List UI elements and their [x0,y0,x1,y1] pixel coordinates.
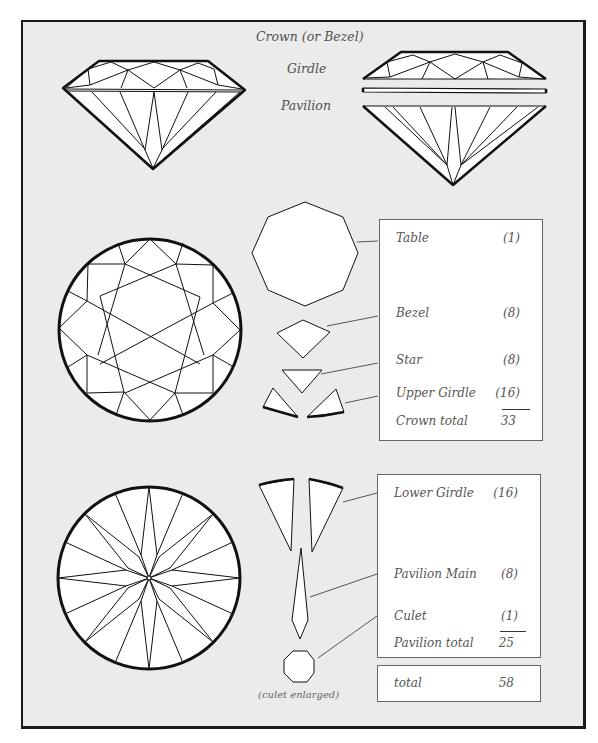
pavilion-label: Pavilion [281,98,331,113]
facet-name: Table [396,231,429,245]
crown-profile [363,52,546,79]
culet-caption: (culet enlarged) [258,689,339,700]
total-label: Pavilion total [394,636,474,650]
sum-rule [502,409,530,410]
facet-name: Star [396,353,422,367]
total-value: 33 [501,414,516,428]
leader-lines [310,241,378,658]
pavilion-main-facet [292,548,308,639]
crown-facet-count-box: Table (1) Bezel (8) Star (8) Upper Girdl… [379,219,543,441]
upper-girdle-facets [263,388,344,417]
grand-total-box: total 58 [377,665,541,702]
sum-rule [500,631,526,632]
total-value: 58 [499,676,514,690]
facet-count: (16) [495,386,520,400]
facet-count: (16) [493,486,518,500]
girdle-label: Girdle [287,61,326,76]
pavilion-profile [363,106,546,185]
bezel-facet [277,320,330,358]
side-profile-assembled [63,61,245,169]
facet-count: (1) [503,231,520,245]
facet-count: (8) [503,306,520,320]
facet-name: Culet [394,609,427,623]
total-label: Crown total [396,414,468,428]
crown-top-view [59,239,241,421]
pavilion-bottom-view [58,487,240,669]
facet-name: Upper Girdle [396,386,476,400]
facet-count: (8) [501,567,518,581]
facet-count: (1) [501,609,518,623]
culet-facet [284,651,314,682]
pavilion-facet-count-box: Lower Girdle (16) Pavilion Main (8) Cule… [377,474,541,658]
facet-name: Pavilion Main [394,567,477,581]
facet-name: Bezel [396,306,429,320]
girdle-profile [363,88,546,93]
total-value: 25 [499,636,514,650]
crown-label: Crown (or Bezel) [256,29,364,44]
lower-girdle-facets [259,479,343,552]
side-profile-exploded [363,52,546,185]
table-facet [252,202,358,306]
star-facet [282,370,322,393]
facet-name: Lower Girdle [394,486,474,500]
total-label: total [394,676,422,690]
facet-count: (8) [503,353,520,367]
